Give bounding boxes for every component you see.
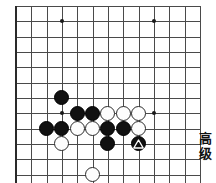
white-stone[interactable] <box>116 106 131 121</box>
black-stone[interactable] <box>54 121 69 136</box>
difficulty-label-char-2: 级 <box>199 146 212 161</box>
go-board-area <box>0 0 192 183</box>
black-stone[interactable] <box>54 90 69 105</box>
difficulty-label-char-1: 高 <box>199 131 212 146</box>
board-line-vertical <box>31 6 32 183</box>
board-line-vertical <box>185 6 186 183</box>
board-line-vertical <box>154 6 155 183</box>
white-stone[interactable] <box>131 106 146 121</box>
white-stone[interactable] <box>131 121 146 136</box>
board-line-vertical <box>139 6 140 183</box>
black-stone[interactable] <box>39 121 54 136</box>
black-stone[interactable] <box>116 121 131 136</box>
black-stone[interactable] <box>131 136 146 151</box>
black-stone[interactable] <box>85 106 100 121</box>
white-stone[interactable] <box>85 121 100 136</box>
difficulty-label: 高 级 <box>195 131 215 161</box>
white-stone[interactable] <box>54 136 69 151</box>
board-line-vertical <box>108 6 109 183</box>
board-line-vertical <box>47 6 48 183</box>
board-line-vertical <box>15 6 17 183</box>
board-line-vertical <box>93 6 94 183</box>
black-stone[interactable] <box>70 106 85 121</box>
board-line-vertical <box>77 6 78 183</box>
screenshot-root: 高 级 <box>0 0 216 183</box>
black-stone[interactable] <box>100 136 115 151</box>
board-line-vertical <box>123 6 124 183</box>
star-point <box>152 111 156 115</box>
white-stone[interactable] <box>70 121 85 136</box>
star-point <box>60 19 64 23</box>
white-stone[interactable] <box>85 167 100 182</box>
star-point <box>60 111 64 115</box>
go-board[interactable] <box>0 0 192 183</box>
white-stone[interactable] <box>100 106 115 121</box>
black-stone[interactable] <box>100 121 115 136</box>
star-point <box>152 19 156 23</box>
board-line-vertical <box>169 6 170 183</box>
